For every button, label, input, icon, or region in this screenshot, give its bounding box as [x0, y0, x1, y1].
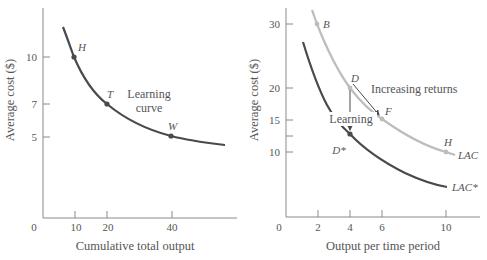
point-H-lac-marker: [444, 150, 449, 155]
point-H-marker: [71, 54, 76, 59]
right-xtick-label-4: 4: [347, 221, 353, 233]
point-B-marker: [315, 22, 320, 27]
point-D-star-label: D*: [331, 144, 346, 156]
point-H-label: H: [77, 41, 87, 53]
left-y-axis-title: Average cost ($): [3, 59, 17, 141]
point-D-marker: [348, 86, 353, 91]
point-W-label: W: [168, 120, 178, 132]
figure: 10 7 5 0 10 20 40 Cumulative total outpu…: [0, 0, 487, 260]
left-xtick-label-40: 40: [167, 221, 179, 233]
lac-star-curve-label: LAC*: [451, 181, 478, 193]
point-B-label: B: [323, 18, 330, 30]
point-D-star-marker: [347, 131, 352, 136]
learning-curve-annotation-line1: Learning: [127, 87, 170, 101]
increasing-returns-label: Increasing returns: [371, 82, 458, 96]
right-chart: 30 20 15 10 0 2 4 6 10 Output per time p…: [247, 8, 480, 253]
right-xtick-label-6: 6: [379, 221, 385, 233]
learning-label: Learning: [329, 112, 372, 126]
left-ytick-label-5: 5: [32, 131, 38, 143]
point-D-label: D: [350, 72, 359, 84]
right-ytick-label-10: 10: [269, 146, 281, 158]
right-x-axis-title: Output per time period: [326, 239, 441, 253]
left-ytick-label-7: 7: [32, 98, 38, 110]
right-xtick-label-10: 10: [441, 221, 453, 233]
point-T-marker: [104, 101, 109, 106]
lac-curve-label: LAC: [457, 149, 479, 161]
right-y-axis-title: Average cost ($): [247, 59, 261, 141]
learning-curve-annotation-line2: curve: [136, 101, 163, 115]
point-T-label: T: [107, 88, 114, 100]
right-ytick-label-30: 30: [269, 18, 281, 30]
left-origin-label: 0: [31, 221, 37, 233]
point-W-marker: [168, 133, 173, 138]
left-ytick-label-10: 10: [26, 51, 38, 63]
right-ytick-label-20: 20: [269, 82, 281, 94]
point-F-marker: [380, 117, 385, 122]
left-xtick-label-20: 20: [103, 221, 115, 233]
right-ytick-label-15: 15: [269, 114, 281, 126]
left-xtick-label-10: 10: [71, 221, 83, 233]
left-x-axis-title: Cumulative total output: [76, 239, 195, 253]
right-xtick-label-2: 2: [315, 221, 321, 233]
point-H-lac-label: H: [443, 136, 453, 148]
right-origin-label: 0: [276, 221, 282, 233]
point-F-label: F: [384, 105, 392, 117]
left-chart: 10 7 5 0 10 20 40 Cumulative total outpu…: [3, 8, 237, 253]
learning-curve-line: [63, 27, 225, 145]
